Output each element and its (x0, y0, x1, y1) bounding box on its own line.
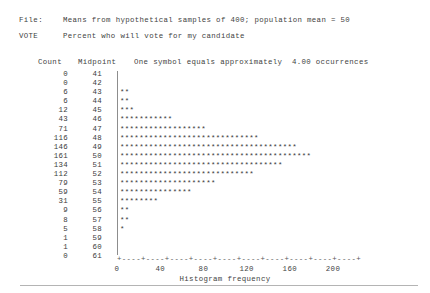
count-value: 112 (30, 170, 68, 179)
table-row: 041 (0, 70, 430, 79)
count-value: 0 (30, 252, 68, 261)
asterisk-bar: ***************************** (120, 134, 259, 143)
table-row: 11252**************************** (0, 170, 430, 179)
table-row: 5954*************** (0, 188, 430, 197)
asterisk-bar: * (120, 225, 125, 234)
count-value: 9 (30, 206, 68, 215)
midpoint-value: 45 (86, 106, 102, 115)
count-value: 6 (30, 88, 68, 97)
midpoint-value: 53 (86, 179, 102, 188)
midpoint-value: 60 (86, 243, 102, 252)
table-row: 11648***************************** (0, 134, 430, 143)
midpoint-value: 54 (86, 188, 102, 197)
asterisk-bar: ******** (120, 197, 158, 206)
x-axis-tick-labels: 04080120160200 (117, 265, 417, 275)
count-value: 59 (30, 188, 68, 197)
asterisk-bar: ********************************** (120, 161, 283, 170)
x-axis-line: +----+----+----+----+----+----+----+----… (117, 255, 361, 263)
midpoint-value: 42 (86, 79, 102, 88)
asterisk-bar: ** (120, 88, 130, 97)
midpoint-value: 49 (86, 143, 102, 152)
asterisk-bar: *********** (120, 115, 173, 124)
midpoint-value: 55 (86, 197, 102, 206)
table-row: 14649***********************************… (0, 143, 430, 152)
count-value: 6 (30, 97, 68, 106)
asterisk-bar: **************************** (120, 170, 254, 179)
asterisk-bar: ** (120, 216, 130, 225)
count-value: 8 (30, 216, 68, 225)
midpoint-value: 59 (86, 234, 102, 243)
x-tick-label: 40 (155, 265, 165, 273)
count-value: 134 (30, 161, 68, 170)
asterisk-bar: ******************** (120, 179, 216, 188)
count-column-header: Count (38, 58, 62, 66)
asterisk-bar: *************** (120, 188, 192, 197)
table-row: 7147****************** (0, 125, 430, 134)
x-tick-label: 200 (326, 265, 340, 273)
variable-description: Percent who will vote for my candidate (63, 32, 245, 40)
midpoint-value: 57 (86, 216, 102, 225)
midpoint-value: 43 (86, 88, 102, 97)
table-row: 644** (0, 97, 430, 106)
midpoint-value: 44 (86, 97, 102, 106)
asterisk-bar: ** (120, 206, 130, 215)
table-row: 159 (0, 234, 430, 243)
table-row: 857** (0, 216, 430, 225)
histogram-rows: 041042643**644**1245***4346***********71… (0, 70, 430, 261)
count-value: 79 (30, 179, 68, 188)
midpoint-value: 46 (86, 115, 102, 124)
count-value: 71 (30, 125, 68, 134)
midpoint-column-header: Midpoint (78, 58, 116, 66)
asterisk-bar: ** (120, 97, 130, 106)
midpoint-value: 56 (86, 206, 102, 215)
table-row: 956** (0, 206, 430, 215)
table-row: 3155******** (0, 197, 430, 206)
asterisk-bar: *** (120, 106, 134, 115)
table-row: 7953******************** (0, 179, 430, 188)
table-row: 558* (0, 225, 430, 234)
table-row: 13451********************************** (0, 161, 430, 170)
midpoint-value: 48 (86, 134, 102, 143)
count-value: 43 (30, 115, 68, 124)
midpoint-value: 52 (86, 170, 102, 179)
count-value: 1 (30, 234, 68, 243)
file-description: Means from hypothetical samples of 400; … (63, 16, 350, 24)
asterisk-bar: ****************** (120, 125, 206, 134)
count-value: 146 (30, 143, 68, 152)
midpoint-value: 58 (86, 225, 102, 234)
x-axis-title: Histogram frequency (117, 275, 333, 283)
midpoint-value: 50 (86, 152, 102, 161)
midpoint-value: 41 (86, 70, 102, 79)
histogram-output-page: File: Means from hypothetical samples of… (0, 0, 430, 293)
midpoint-value: 47 (86, 125, 102, 134)
midpoint-value: 61 (86, 252, 102, 261)
table-row: 042 (0, 79, 430, 88)
count-value: 161 (30, 152, 68, 161)
x-tick-label: 120 (239, 265, 253, 273)
count-value: 0 (30, 79, 68, 88)
table-row: 4346*********** (0, 115, 430, 124)
variable-name-label: VOTE (19, 32, 38, 40)
table-row: 160 (0, 243, 430, 252)
count-value: 0 (30, 70, 68, 79)
asterisk-bar: **************************************** (120, 152, 311, 161)
symbol-legend-text: One symbol equals approximately 4.00 occ… (134, 58, 368, 66)
count-value: 31 (30, 197, 68, 206)
midpoint-value: 51 (86, 161, 102, 170)
asterisk-bar: ************************************* (120, 143, 297, 152)
table-row: 643** (0, 88, 430, 97)
table-row: 16150***********************************… (0, 152, 430, 161)
count-value: 116 (30, 134, 68, 143)
table-row: 1245*** (0, 106, 430, 115)
count-value: 1 (30, 243, 68, 252)
bottom-divider (20, 285, 418, 286)
x-tick-label: 160 (283, 265, 297, 273)
count-value: 12 (30, 106, 68, 115)
count-value: 5 (30, 225, 68, 234)
x-tick-label: 0 (115, 265, 120, 273)
x-tick-label: 80 (199, 265, 209, 273)
file-label: File: (19, 16, 43, 24)
